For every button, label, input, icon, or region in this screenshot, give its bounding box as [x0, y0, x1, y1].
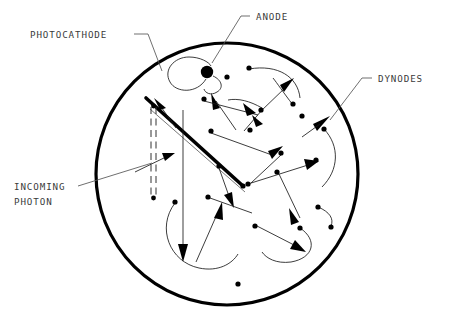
dot-10 [313, 157, 318, 162]
dot-20 [172, 199, 177, 204]
dot-18 [205, 194, 210, 199]
dot-6 [258, 107, 263, 112]
label-incoming-photon-line1: INCOMING [14, 181, 65, 192]
dot-14 [274, 169, 279, 174]
dot-7 [290, 101, 295, 106]
pmt-diagram-root: PHOTOCATHODE ANODE DYNODES INCOMING PHOT… [0, 0, 450, 319]
dot-17 [252, 223, 257, 228]
dot-1 [224, 74, 229, 79]
dot-21 [240, 183, 245, 188]
photon-exit-dot [151, 196, 156, 201]
dot-8 [299, 113, 304, 118]
dot-5 [247, 127, 252, 132]
label-photocathode: PHOTOCATHODE [30, 29, 107, 40]
dot-12 [216, 163, 221, 168]
dot-11 [278, 150, 283, 155]
dot-3 [201, 96, 206, 101]
dot-2 [246, 65, 251, 70]
photon-entry-dot [151, 104, 156, 109]
dot-4 [208, 128, 213, 133]
dot-9 [321, 126, 326, 131]
anode-node [201, 66, 213, 78]
label-anode: ANODE [256, 11, 288, 22]
dot-19 [235, 281, 240, 286]
dot-22 [328, 224, 333, 229]
pmt-diagram-svg: PHOTOCATHODE ANODE DYNODES INCOMING PHOT… [0, 0, 450, 319]
dot-16 [297, 225, 302, 230]
tube-envelope [96, 43, 358, 305]
label-dynodes: DYNODES [378, 73, 423, 84]
label-incoming-photon-line2: PHOTON [14, 196, 53, 207]
dot-13 [245, 181, 250, 186]
dot-15 [315, 204, 320, 209]
